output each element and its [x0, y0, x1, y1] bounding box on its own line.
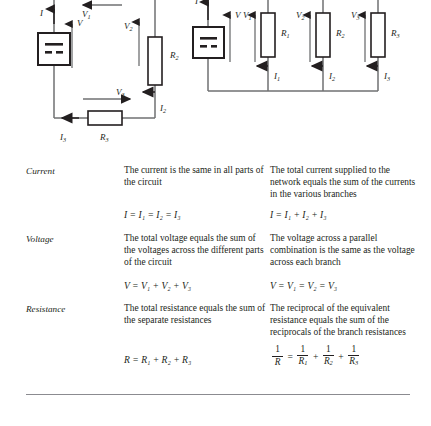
parallel-R2-label: R2 [335, 28, 345, 39]
row-label-voltage: Voltage [26, 234, 121, 246]
parallel-resistor-R3 [371, 13, 385, 57]
fraction-numerator: 1 [350, 345, 357, 355]
parallel-current-I2-label: I2 [328, 71, 335, 82]
fraction-term: 1 R [272, 345, 283, 367]
series-current-I3-label: I3 [59, 132, 66, 143]
series-circuit: R2 R3 I V V1 V2 V3 I2 [38, 0, 179, 143]
resistance-parallel-description: The reciprocal of the equivalent resista… [270, 303, 422, 338]
voltage-series-equation: V = V₁ + V₂ + V₃ [124, 280, 266, 292]
series-voltage-V2-label: V2 [124, 21, 133, 32]
series-resistor-R3 [88, 111, 122, 125]
fraction-denominator: R [274, 357, 282, 367]
current-series-description: The current is the same in all parts of … [124, 165, 266, 189]
plus-operator: + [338, 351, 343, 362]
parallel-current-I-label: I [194, 0, 199, 6]
fraction-denominator: R3 [348, 356, 359, 367]
resistance-series-equation: R = R₁ + R₂ + R₃ [124, 354, 266, 366]
series-R2-label: R2 [169, 50, 179, 61]
series-voltage-V-label: V [77, 18, 84, 28]
fraction-term: 1 R2 [323, 345, 334, 367]
parallel-resistor-R1 [261, 13, 275, 57]
circuit-diagrams-figure: R2 R3 I V V1 V2 V3 I2 [0, 0, 431, 152]
voltage-series-description: The total voltage equals the sum of the … [124, 233, 266, 268]
parallel-resistor-R2 [316, 13, 330, 57]
parallel-R3-label: R3 [390, 28, 400, 39]
voltage-parallel-equation: V = V₁ = V₂ = V₃ [270, 280, 422, 292]
fraction-numerator: 1 [300, 345, 307, 355]
current-parallel-description: The total current supplied to the networ… [270, 165, 422, 200]
series-current-I-label: I [39, 8, 44, 18]
current-series-equation: I = I₁ = I₂ = I₃ [124, 209, 266, 221]
series-parallel-comparison-table: Current The current is the same in all p… [0, 152, 431, 426]
table-bottom-rule [26, 394, 410, 395]
fraction-denominator: R1 [297, 356, 308, 367]
parallel-voltage-V3-label: V3 [351, 10, 360, 21]
row-label-resistance: Resistance [26, 304, 121, 316]
fraction-term: 1 R3 [348, 345, 359, 367]
fraction-numerator: 1 [325, 345, 332, 355]
parallel-voltage-V-label: V [235, 10, 242, 20]
series-battery-symbol [38, 33, 70, 65]
fraction-numerator: 1 [274, 345, 281, 355]
parallel-voltage-V2-label: V2 [296, 10, 305, 21]
voltage-parallel-description: The voltage across a parallel combinatio… [270, 233, 422, 268]
parallel-battery-symbol [193, 27, 224, 58]
resistance-series-description: The total resistance equals the sum of t… [124, 303, 266, 327]
plus-operator: + [313, 351, 318, 362]
fraction-denominator: R2 [323, 356, 334, 367]
series-voltage-V3-label: V3 [116, 87, 125, 98]
parallel-current-I3-label: I3 [383, 71, 390, 82]
series-resistor-R2 [148, 37, 162, 85]
row-label-current: Current [26, 166, 121, 178]
series-voltage-V1-label: V1 [82, 9, 91, 20]
parallel-R1-label: R1 [280, 28, 290, 39]
current-parallel-equation: I = I₁ + I₂ + I₃ [270, 209, 422, 221]
parallel-circuit: R1 R2 R3 I V V1 V2 V3 I1 [193, 0, 400, 91]
series-current-I2-label: I2 [159, 103, 166, 114]
parallel-voltage-V1-label: V1 [243, 10, 252, 21]
equals-operator: = [288, 351, 293, 362]
resistance-parallel-equation: 1 R = 1 R1 + 1 R2 + 1 R3 [270, 345, 361, 367]
series-R3-label: R3 [99, 132, 109, 143]
parallel-current-I1-label: I1 [273, 71, 280, 82]
fraction-term: 1 R1 [297, 345, 308, 367]
